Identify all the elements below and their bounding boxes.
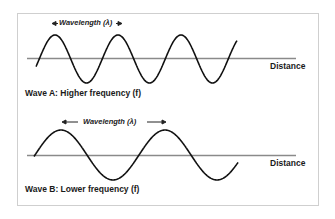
- wave-a-distance-label: Distance: [270, 61, 305, 71]
- wave-b-wavelength-label: Wavelength (λ): [83, 117, 136, 126]
- wave-a-title: Wave A: Higher frequency (f): [25, 88, 141, 98]
- wave-a-wavelength-label: Wavelength (λ): [59, 18, 112, 27]
- wave-b-distance-label: Distance: [270, 158, 305, 168]
- wave-b-title: Wave B: Lower frequency (f): [25, 184, 139, 194]
